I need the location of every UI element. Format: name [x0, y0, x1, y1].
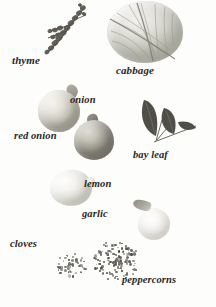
peppercorn-grain — [117, 247, 119, 249]
peppercorn-grain — [121, 269, 122, 270]
red-onion-bulb — [74, 120, 114, 160]
peppercorn-grain — [121, 243, 123, 245]
peppercorn-grain — [134, 263, 136, 265]
peppercorn-grain — [117, 278, 119, 280]
clove-grain — [67, 265, 70, 268]
clove-grain — [59, 272, 61, 274]
peppercorn-grain — [133, 268, 136, 271]
peppercorn-grain — [102, 272, 104, 274]
clove-grain — [59, 257, 61, 259]
peppercorn-grain — [100, 253, 102, 255]
peppercorn-grain — [100, 267, 103, 270]
peppercorn-grain — [118, 250, 120, 252]
clove-grain — [80, 259, 82, 261]
clove-grain — [75, 272, 77, 274]
peppercorn-grain — [128, 260, 131, 263]
clove-grain — [75, 258, 78, 261]
peppercorn-grain — [121, 270, 123, 272]
peppercorn-grain — [117, 267, 119, 268]
clove-grain — [74, 253, 76, 255]
peppercorn-grain — [105, 242, 108, 244]
label-thyme: thyme — [12, 55, 40, 66]
peppercorn-grain — [133, 265, 135, 266]
label-onion: onion — [70, 95, 96, 106]
specimen-red-onion — [74, 120, 114, 160]
peppercorn-grain — [106, 252, 109, 256]
clove-grain — [67, 267, 70, 270]
peppercorn-grain — [116, 259, 119, 262]
label-peppercorns: peppercorns — [122, 275, 176, 286]
clove-grain — [84, 268, 86, 270]
clove-grain — [72, 275, 75, 278]
peppercorn-grain — [107, 278, 109, 280]
peppercorn-grain — [123, 253, 125, 255]
peppercorn-grain — [123, 250, 124, 251]
peppercorn-grain — [133, 252, 136, 255]
specimen-cabbage — [107, 1, 183, 63]
clove-grain — [58, 263, 60, 265]
specimen-bay-leaf — [132, 96, 198, 148]
peppercorn-grain — [102, 251, 104, 253]
label-garlic: garlic — [82, 209, 108, 220]
clove-grain — [83, 261, 85, 262]
peppercorn-grain — [110, 251, 112, 253]
label-red-onion: red onion — [14, 131, 57, 142]
peppercorn-grain — [102, 269, 104, 271]
clove-grain — [80, 271, 82, 273]
clove-grain — [68, 259, 69, 261]
peppercorn-grain — [111, 248, 114, 250]
peppercorn-grain — [124, 261, 126, 263]
clove-grain — [71, 259, 73, 262]
peppercorn-grain — [99, 260, 101, 262]
clove-grain — [79, 264, 82, 268]
peppercorn-grain — [96, 264, 98, 265]
garlic-stalk — [132, 197, 152, 212]
peppercorn-grain — [106, 272, 108, 274]
peppercorn-grain — [119, 242, 121, 243]
clove-grain — [68, 274, 71, 278]
peppercorn-grain — [132, 260, 134, 262]
label-cabbage: cabbage — [116, 65, 154, 76]
peppercorn-grain — [121, 247, 124, 249]
specimen-thyme — [40, 2, 96, 60]
peppercorn-grain — [103, 261, 105, 263]
peppercorn-grain — [129, 263, 132, 266]
peppercorn-grain — [128, 250, 129, 251]
ingredients-plate: thyme cabbage onion — [0, 0, 216, 307]
label-lemon: lemon — [84, 179, 111, 190]
clove-grain — [70, 271, 72, 273]
peppercorn-grain — [99, 270, 101, 272]
clove-grain — [58, 269, 59, 271]
peppercorn-grain — [126, 256, 129, 259]
label-bay-leaf: bay leaf — [133, 150, 168, 161]
clove-grain — [63, 260, 65, 262]
peppercorn-grain — [115, 271, 117, 273]
label-cloves: cloves — [10, 239, 37, 250]
clove-grain — [81, 257, 83, 259]
clove-grain — [64, 257, 66, 259]
garlic-bulb — [138, 208, 170, 240]
specimen-garlic — [133, 200, 173, 242]
clove-grain — [60, 268, 63, 271]
peppercorn-grain — [113, 257, 114, 258]
clove-grain — [71, 263, 74, 266]
peppercorn-grain — [120, 265, 123, 267]
specimen-cloves — [55, 250, 89, 280]
peppercorn-grain — [94, 254, 97, 257]
peppercorn-grain — [106, 245, 108, 247]
clove-grain — [72, 256, 74, 258]
